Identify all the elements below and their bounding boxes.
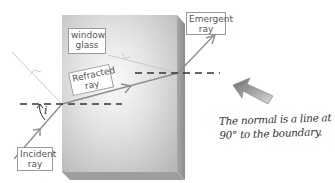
block-bottom-face: [62, 172, 185, 180]
incident-label-line1: Incident: [20, 149, 50, 159]
block-side-face: [177, 15, 185, 180]
normal-definition-note: The normal is a line at 90° to the bound…: [219, 110, 333, 142]
window-glass-label-line1: window: [71, 30, 103, 40]
emergent-ray-label: Emergent ray: [186, 12, 226, 35]
pointer-arrow-icon: [233, 78, 273, 104]
incident-label-line2: ray: [20, 159, 50, 169]
window-glass-label: window glass: [68, 28, 106, 54]
angle-symbol: i: [44, 104, 48, 117]
incident-ray-label: Incident ray: [17, 147, 53, 171]
emergent-label-line2: ray: [189, 24, 223, 34]
refraction-diagram: window glass Refracted ray Emergent ray …: [0, 0, 335, 183]
emergent-label-line1: Emergent: [189, 14, 223, 24]
window-glass-label-line2: glass: [71, 40, 103, 50]
